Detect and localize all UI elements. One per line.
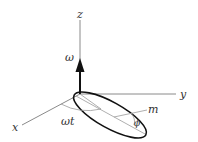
omega-t-label: ωt (61, 115, 75, 128)
mass-projection-line (114, 110, 147, 117)
x-axis-label: x (12, 121, 19, 134)
z-axis-label: z (76, 8, 83, 21)
mass-label: m (148, 103, 158, 116)
diagram-canvas: z y x ω ωt m ϕ (0, 0, 198, 142)
angular-velocity-arrow-icon (76, 58, 85, 94)
rotation-reference-line (80, 94, 101, 109)
phi-label: ϕ (134, 118, 140, 128)
y-axis-label: y (179, 88, 187, 101)
omega-label: ω (65, 51, 74, 64)
orbit-ellipse (68, 84, 152, 142)
